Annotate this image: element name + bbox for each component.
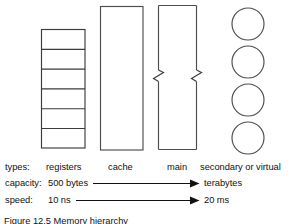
cache-box: [101, 7, 144, 151]
main-memory-box: [154, 6, 202, 150]
disk-platter-icon: [232, 84, 264, 116]
capacity-arrow-icon: [93, 180, 200, 188]
figure-root: types: registers cache main secondary or…: [0, 0, 303, 224]
secondary-storage-platters: [232, 8, 264, 154]
disk-platter-icon: [232, 8, 264, 40]
break-mark-icon-right: [192, 70, 202, 82]
disk-platter-icon: [232, 122, 264, 154]
disk-platter-icon: [232, 46, 264, 78]
registers-box: [42, 30, 86, 149]
break-mark-icon-left: [154, 70, 164, 82]
memory-hierarchy-diagram: [0, 0, 303, 224]
speed-arrow-icon: [76, 197, 200, 205]
